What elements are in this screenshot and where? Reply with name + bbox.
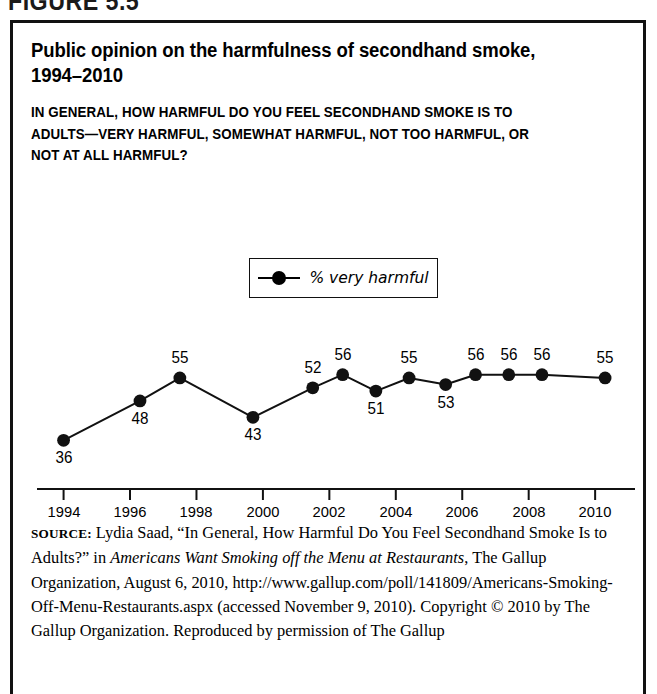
x-axis-tick-label: 2002 (313, 503, 346, 521)
data-point-value-label: 56 (500, 346, 517, 364)
data-point-value-label: 56 (334, 346, 351, 364)
data-point-value-label: 56 (534, 346, 551, 364)
data-point-value-label: 51 (367, 400, 384, 418)
x-axis-tick-label: 1994 (47, 503, 80, 521)
source-publication-title: Americans Want Smoking off the Menu at R… (110, 548, 464, 567)
x-axis-tick-label: 2000 (247, 503, 280, 521)
x-axis-tick-label: 2010 (579, 503, 612, 521)
legend-marker-icon (258, 271, 300, 285)
data-point-value-label: 53 (437, 394, 454, 412)
source-label: SOURCE: (31, 526, 92, 541)
legend-label: % very harmful (309, 269, 428, 287)
data-point-value-label: 56 (467, 346, 484, 364)
x-axis-tick-label: 2004 (379, 503, 412, 521)
data-point-value-label: 52 (304, 359, 321, 377)
data-point-value-label: 55 (597, 349, 614, 367)
chart-plot-area: % very harmful 1994199619982000200220042… (10, 20, 646, 520)
x-axis-tick-label: 1996 (114, 503, 147, 521)
x-axis-tick-label: 2008 (512, 503, 545, 521)
data-point-value-label: 43 (244, 426, 261, 444)
data-point-value-label: 48 (132, 410, 149, 428)
data-point-value-label: 55 (171, 349, 188, 367)
chart-legend: % very harmful (249, 258, 438, 298)
x-axis-tick-label: 1998 (180, 503, 213, 521)
x-axis-tick-label: 2006 (446, 503, 479, 521)
data-point-value-label: 36 (55, 449, 72, 467)
data-point-value-label: 55 (401, 349, 418, 367)
figure-number-header: FIGURE 5.5 (8, 0, 139, 16)
source-note: SOURCE: Lydia Saad, “In General, How Har… (31, 521, 623, 643)
